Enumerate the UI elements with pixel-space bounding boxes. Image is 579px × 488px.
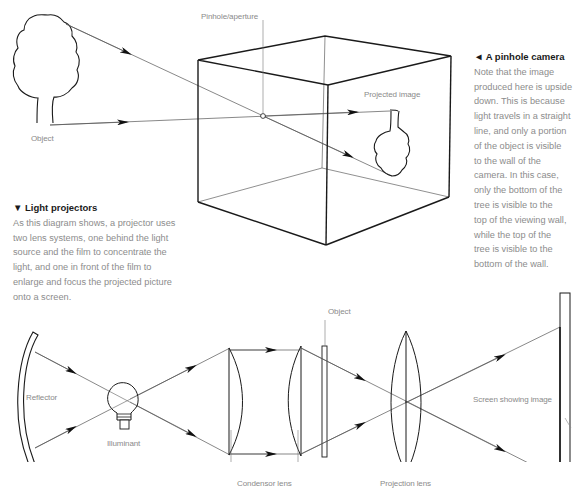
- projection-lens-icon: [391, 331, 421, 462]
- pinhole-icon: [261, 114, 266, 119]
- light-projector-diagram: [18, 293, 571, 462]
- projected-image-icon: [374, 110, 410, 176]
- object-label: Object: [31, 134, 54, 143]
- light-projector-caption: ▼ Light projectors As this diagram shows…: [13, 201, 213, 305]
- pinhole-camera-caption: ◄ A pinhole camera Note that the image p…: [474, 50, 579, 272]
- film-object-label: Object: [328, 307, 351, 316]
- condensor-lens-2-icon: [288, 346, 301, 456]
- light-projector-body: As this diagram shows, a projector uses …: [13, 216, 213, 305]
- illuminant-bulb-icon: [108, 383, 139, 429]
- pinhole-camera-body: Note that the image produced here is ups…: [474, 65, 579, 272]
- pinhole-camera-heading: ◄ A pinhole camera: [474, 50, 579, 65]
- reflector-label: Reflector: [26, 393, 57, 402]
- film-object-icon: [322, 346, 327, 457]
- illuminant-label: Illuminant: [107, 439, 140, 448]
- light-projector-heading: ▼ Light projectors: [13, 201, 213, 216]
- projected-image-label: Projected image: [364, 90, 420, 99]
- tree-object-icon: [13, 15, 79, 123]
- screen-label: Screen showing image: [473, 395, 552, 404]
- screen-icon: [560, 293, 570, 462]
- pinhole-label: Pinhole/aperture: [201, 12, 258, 21]
- condensor-lens-label: Condensor lens: [237, 479, 292, 488]
- projection-lens-label: Projection lens: [380, 479, 431, 488]
